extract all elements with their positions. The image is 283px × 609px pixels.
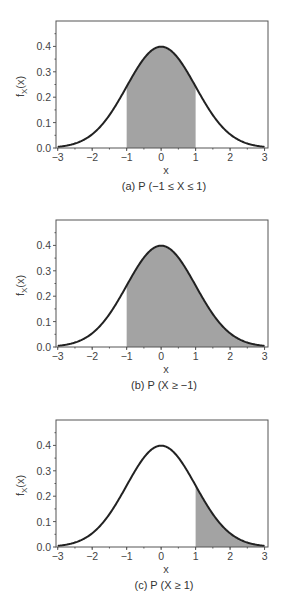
x-tick-label: −1 xyxy=(121,550,133,562)
panel-caption: (a) P (−1 ≤ X ≤ 1) xyxy=(122,180,206,192)
x-tick-label: −2 xyxy=(86,550,98,562)
x-tick-label: 1 xyxy=(193,350,199,362)
x-tick-label: 1 xyxy=(193,151,199,163)
y-tick-label: 0.0 xyxy=(36,341,51,353)
shaded-probability-region xyxy=(127,47,196,148)
chart-a-svg: −3−2−101230.00.10.20.30.4xfX(x)(a) P (−1… xyxy=(0,0,283,200)
x-tick-label: 2 xyxy=(227,550,233,562)
chart-panel-b: −3−2−101230.00.10.20.30.4xfX(x)(b) P (X … xyxy=(0,199,283,399)
y-tick-label: 0.0 xyxy=(36,142,51,154)
x-tick-label: 0 xyxy=(158,350,164,362)
x-axis-label: x xyxy=(163,363,169,375)
chart-panel-a: −3−2−101230.00.10.20.30.4xfX(x)(a) P (−1… xyxy=(0,0,283,200)
chart-panel-c: −3−2−101230.00.10.20.30.4xfX(x)(c) P (X … xyxy=(0,399,283,599)
x-tick-label: −1 xyxy=(121,350,133,362)
y-tick-label: 0.0 xyxy=(36,541,51,553)
x-tick-label: −1 xyxy=(121,151,133,163)
x-tick-label: 0 xyxy=(158,550,164,562)
panel-caption: (b) P (X ≥ −1) xyxy=(131,379,197,391)
y-tick-label: 0.1 xyxy=(36,117,51,129)
y-tick-label: 0.1 xyxy=(36,316,51,328)
y-tick-label: 0.2 xyxy=(36,290,51,302)
x-axis-label: x xyxy=(163,563,169,575)
shaded-probability-region xyxy=(196,486,265,547)
pdf-curve xyxy=(58,446,265,546)
shaded-probability-region xyxy=(127,246,265,347)
y-tick-label: 0.1 xyxy=(36,516,51,528)
y-tick-label: 0.3 xyxy=(36,265,51,277)
y-tick-label: 0.2 xyxy=(36,91,51,103)
x-tick-label: 3 xyxy=(262,151,268,163)
x-tick-label: −3 xyxy=(52,350,64,362)
chart-c-svg: −3−2−101230.00.10.20.30.4xfX(x)(c) P (X … xyxy=(0,399,283,609)
x-tick-label: 3 xyxy=(262,350,268,362)
y-axis-label: fX(x) xyxy=(14,76,29,97)
x-tick-label: 0 xyxy=(158,151,164,163)
x-tick-label: 1 xyxy=(193,550,199,562)
x-tick-label: −3 xyxy=(52,550,64,562)
y-tick-label: 0.4 xyxy=(36,40,51,52)
x-tick-label: 2 xyxy=(227,151,233,163)
x-tick-label: 2 xyxy=(227,350,233,362)
panel-caption: (c) P (X ≥ 1) xyxy=(134,579,193,591)
y-tick-label: 0.3 xyxy=(36,66,51,78)
x-tick-label: 3 xyxy=(262,550,268,562)
x-tick-label: −3 xyxy=(52,151,64,163)
y-axis-label: fX(x) xyxy=(14,475,29,496)
y-tick-label: 0.3 xyxy=(36,465,51,477)
x-tick-label: −2 xyxy=(86,151,98,163)
x-axis-label: x xyxy=(163,164,169,176)
y-axis-label: fX(x) xyxy=(14,275,29,296)
plot-frame xyxy=(56,420,268,547)
x-tick-label: −2 xyxy=(86,350,98,362)
y-tick-label: 0.4 xyxy=(36,439,51,451)
y-tick-label: 0.2 xyxy=(36,490,51,502)
chart-b-svg: −3−2−101230.00.10.20.30.4xfX(x)(b) P (X … xyxy=(0,199,283,399)
y-tick-label: 0.4 xyxy=(36,239,51,251)
